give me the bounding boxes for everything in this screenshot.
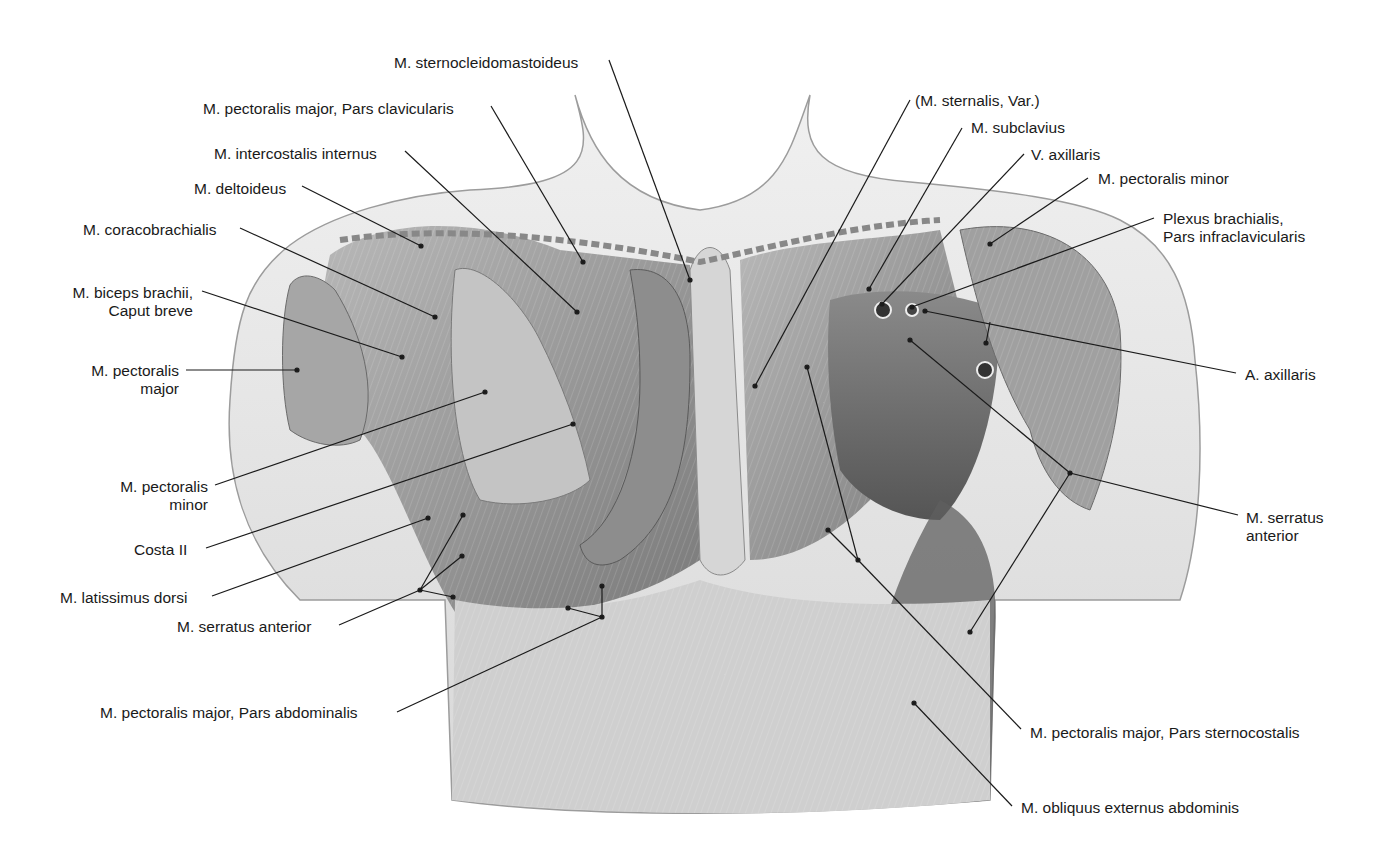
- label-intercostalis-internus: M. intercostalis internus: [214, 145, 377, 163]
- label-pectoralis-major-left: M. pectoralis major: [79, 362, 179, 398]
- label-deltoideus: M. deltoideus: [194, 180, 286, 198]
- label-serratus-anterior-right: M. serratus anterior: [1246, 509, 1324, 545]
- label-sternocleidomastoideus: M. sternocleidomastoideus: [394, 54, 578, 72]
- label-pectoralis-minor-left: M. pectoralis minor: [108, 478, 208, 514]
- label-pectoralis-major-sternocostalis: M. pectoralis major, Pars sternocostalis: [1030, 724, 1300, 742]
- label-subclavius: M. subclavius: [971, 119, 1065, 137]
- label-biceps-caput-breve: M. biceps brachii, Caput breve: [58, 284, 193, 320]
- label-pectoralis-minor-right: M. pectoralis minor: [1098, 170, 1229, 188]
- label-pectoralis-major-clavicularis: M. pectoralis major, Pars clavicularis: [203, 100, 454, 118]
- label-serratus-anterior-left: M. serratus anterior: [177, 618, 311, 636]
- label-a-axillaris: A. axillaris: [1245, 366, 1316, 384]
- label-sternalis-var: (M. sternalis, Var.): [915, 92, 1040, 110]
- abdomen: [452, 580, 990, 813]
- label-plexus-brachialis: Plexus brachialis, Pars infraclaviculari…: [1163, 210, 1305, 246]
- label-obliquus-externus-abdominis: M. obliquus externus abdominis: [1021, 799, 1239, 817]
- label-pectoralis-major-abdominalis: M. pectoralis major, Pars abdominalis: [100, 704, 358, 722]
- label-costa-ii: Costa II: [134, 541, 187, 559]
- label-latissimus-dorsi: M. latissimus dorsi: [60, 589, 187, 607]
- label-v-axillaris: V. axillaris: [1031, 146, 1100, 164]
- label-coracobrachialis: M. coracobrachialis: [83, 221, 217, 239]
